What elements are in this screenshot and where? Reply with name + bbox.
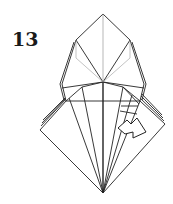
lower-square [40,82,165,193]
origami-diagram: 13 [0,0,173,204]
origami-figure [0,0,173,204]
